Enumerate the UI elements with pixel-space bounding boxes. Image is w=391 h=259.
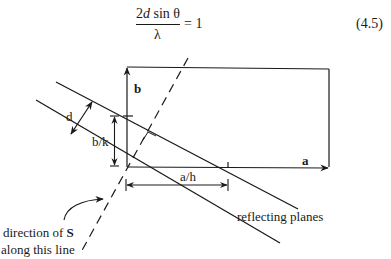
direction-s-label-line1: direction of S [3,226,74,239]
label-pointer-arrow [64,199,103,220]
b-over-k-label: b/k [92,135,109,148]
direction-s-label-line2: along this line [1,243,75,256]
d-spacing-label: d [66,110,73,123]
direction-text: direction of [3,225,67,240]
b-over-k-dimension [110,116,119,166]
a-over-h-dimension [126,179,228,191]
b-vector-label: b [134,82,141,95]
a-vector-label: a [302,154,309,167]
unit-cell-rectangle [127,67,329,167]
a-over-h-label: a/h [180,170,196,183]
bragg-diagram [0,0,391,259]
s-vector-symbol: S [67,225,74,240]
reflecting-planes-label: reflecting planes [237,210,323,223]
d-spacing-arrow [71,102,92,134]
